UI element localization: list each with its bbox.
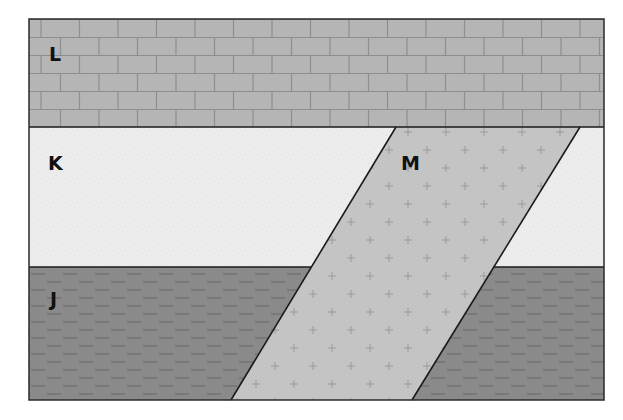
layer-l — [29, 19, 604, 127]
label-j: J — [48, 288, 57, 310]
label-k: K — [48, 152, 64, 174]
geologic-cross-section: L K J M — [0, 0, 623, 420]
label-m: M — [401, 152, 420, 174]
label-l: L — [49, 43, 61, 65]
